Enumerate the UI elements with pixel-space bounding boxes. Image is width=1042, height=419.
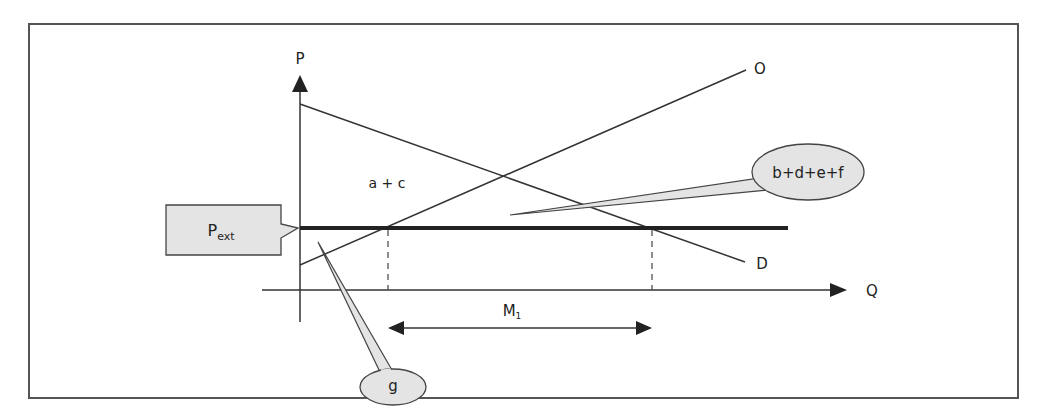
producer-area-label: g xyxy=(388,377,398,395)
demand-curve-label: D xyxy=(756,255,768,273)
quantity-axis-arrow-icon xyxy=(830,283,847,297)
price-axis-label: P xyxy=(295,50,304,68)
supply-curve: O xyxy=(300,60,766,265)
imports-arrow-right-icon xyxy=(636,321,652,335)
supply-curve-label: O xyxy=(754,60,766,78)
quantity-axis-label: Q xyxy=(866,282,878,300)
quantity-axis: Q xyxy=(262,282,878,300)
imports-label: M1 xyxy=(503,302,522,321)
consumer-area-label: a + c xyxy=(369,175,406,191)
imports-arrow-left-icon xyxy=(388,321,404,335)
price-axis-arrow-icon xyxy=(292,75,308,92)
welfare-gain-label: b+d+e+f xyxy=(772,164,844,182)
price-axis: P xyxy=(292,50,308,322)
producer-area-callout: g xyxy=(318,242,426,405)
imports-arrow: M1 xyxy=(388,302,652,335)
external-price-callout: Pext xyxy=(166,205,298,255)
welfare-gain-callout: b+d+e+f xyxy=(510,144,864,215)
diagram-canvas: P Q D O a + c M1 Pext b+d+e+f xyxy=(0,0,1042,419)
